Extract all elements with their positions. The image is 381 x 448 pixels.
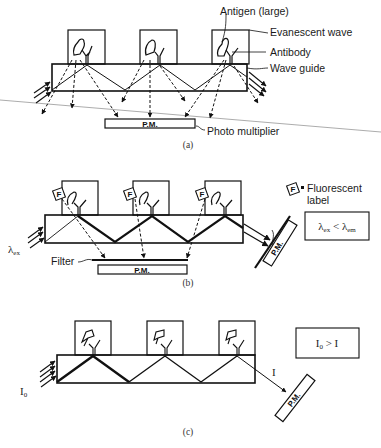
panel-a: P.M. Antigen (large) Evanescent wave Ant… bbox=[34, 5, 352, 151]
bound-antigen-icon bbox=[82, 330, 94, 346]
antibody-icon bbox=[155, 48, 164, 64]
waveguide-immunosensor-diagram: P.M. Antigen (large) Evanescent wave Ant… bbox=[0, 0, 381, 448]
antigen-icon bbox=[211, 192, 220, 205]
antibody-icon bbox=[161, 340, 172, 355]
filter-label: Filter bbox=[51, 255, 75, 267]
lambda-ex-input-label: λex bbox=[8, 243, 20, 257]
antibody-icon bbox=[233, 340, 244, 355]
panel-b: F F F λex F bbox=[8, 181, 369, 289]
antigen-icon bbox=[139, 192, 148, 205]
light-path-c-strong bbox=[57, 356, 129, 382]
light-path-b bbox=[78, 216, 243, 242]
wave-guide-label: Wave guide bbox=[270, 62, 325, 74]
caption-b: (b) bbox=[182, 278, 193, 289]
legend-text-line1: Fluorescent bbox=[307, 182, 362, 194]
light-path-c-medium bbox=[129, 356, 237, 382]
light-path-b-incident bbox=[45, 216, 78, 242]
antigen-icon bbox=[217, 38, 228, 56]
evanescent-wave-box-3 bbox=[205, 181, 241, 215]
bound-antigen-icon bbox=[226, 330, 236, 344]
pm-label-a: P.M. bbox=[142, 120, 157, 129]
antibody-icon bbox=[226, 48, 238, 64]
antibody-label: Antibody bbox=[270, 46, 312, 58]
f-glyph: F bbox=[200, 190, 205, 199]
photo-multiplier-label: Photo multiplier bbox=[207, 125, 280, 137]
antibody-icon bbox=[74, 200, 86, 215]
panel-c: I0 I P.M. I0 > I (c) bbox=[20, 321, 359, 438]
pm-label-b: P.M. bbox=[134, 266, 149, 275]
f-glyph: F bbox=[128, 190, 133, 199]
legend-f-glyph: F bbox=[291, 185, 296, 194]
legend-text-line2: label bbox=[307, 194, 329, 206]
wave-guide-b bbox=[45, 215, 243, 243]
i-output-label: I bbox=[272, 366, 276, 378]
antibody-icon bbox=[220, 200, 232, 215]
caption-c: (c) bbox=[183, 427, 194, 438]
antigen-label: Antigen (large) bbox=[220, 5, 289, 17]
f-glyph: F bbox=[57, 190, 62, 199]
output-ray-c bbox=[237, 356, 286, 392]
i0-input-label: I0 bbox=[20, 385, 28, 399]
evanescent-wave-label: Evanescent wave bbox=[270, 26, 352, 38]
caption-a: (a) bbox=[183, 140, 194, 151]
bound-antigen-icon bbox=[154, 330, 164, 344]
antibody-icon bbox=[89, 340, 100, 355]
antigen-icon bbox=[145, 40, 155, 55]
legend-equals-mark bbox=[301, 186, 304, 189]
antibody-icon bbox=[147, 200, 159, 215]
antigen-icon bbox=[73, 39, 84, 55]
condition-text-c: I0 > I bbox=[316, 337, 339, 351]
